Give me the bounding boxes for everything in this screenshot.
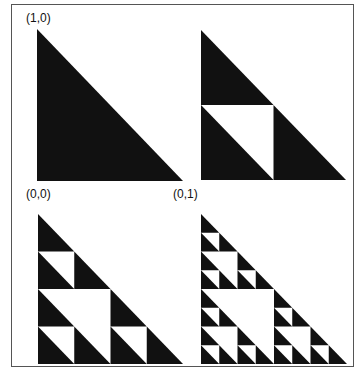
sierpinski-depth-2	[38, 214, 183, 364]
sierpinski-depth-0	[37, 29, 183, 181]
sierpinski-depth-1	[201, 30, 346, 180]
sierpinski-depth-3	[201, 214, 347, 364]
sierpinski-canvas	[0, 0, 360, 374]
